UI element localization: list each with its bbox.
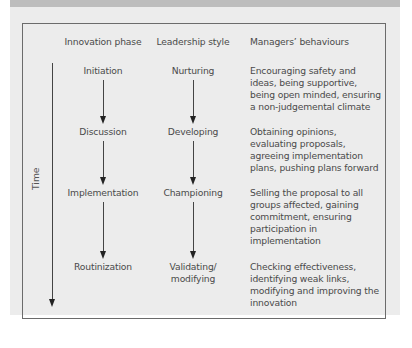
phase-arrow-line-2 [103, 141, 104, 179]
style-developing: Developing [148, 126, 238, 138]
style-validating-modifying: Validating/ modifying [148, 261, 238, 285]
header-leadership-style: Leadership style [148, 36, 238, 48]
phase-arrow-down-icon-3 [100, 251, 106, 259]
phase-routinization: Routinization [58, 261, 148, 273]
style-arrow-down-icon-2 [190, 177, 196, 185]
behaviours-implementation: Selling the proposal to all groups affec… [250, 187, 382, 247]
style-arrow-line-1 [193, 80, 194, 118]
phase-arrow-line-1 [103, 80, 104, 118]
time-axis-arrow-icon [49, 299, 55, 307]
style-arrow-line-3 [193, 202, 194, 254]
phase-implementation: Implementation [58, 187, 148, 199]
phase-initiation: Initiation [58, 65, 148, 77]
time-axis-label: Time [30, 168, 41, 190]
behaviours-initiation: Encouraging safety and ideas, being supp… [250, 65, 382, 113]
style-championing: Championing [148, 187, 238, 199]
style-arrow-line-2 [193, 141, 194, 179]
style-arrow-down-icon-1 [190, 116, 196, 124]
top-banner [10, 0, 400, 7]
style-arrow-down-icon-3 [190, 251, 196, 259]
behaviours-routinization: Checking effectiveness, identifying weak… [250, 261, 382, 309]
phase-discussion: Discussion [58, 126, 148, 138]
phase-arrow-line-3 [103, 202, 104, 254]
behaviours-discussion: Obtaining opinions, evaluating proposals… [250, 126, 382, 174]
time-axis-line [52, 63, 53, 301]
style-nurturing: Nurturing [148, 65, 238, 77]
header-managers-behaviours: Managers’ behaviours [250, 36, 349, 48]
header-innovation-phase: Innovation phase [58, 36, 148, 48]
phase-arrow-down-icon-1 [100, 116, 106, 124]
phase-arrow-down-icon-2 [100, 177, 106, 185]
